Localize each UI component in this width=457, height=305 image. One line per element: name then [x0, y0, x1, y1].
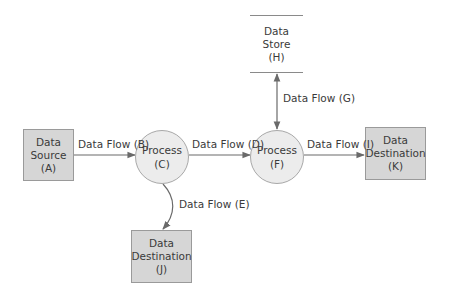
- flow-g-label: Data Flow (G): [283, 92, 355, 104]
- flow-e-label: Data Flow (E): [179, 198, 250, 210]
- node-label-line: (K): [388, 160, 403, 173]
- node-label-line: Data: [264, 25, 289, 38]
- flow-e-arrow: [163, 184, 173, 229]
- flow-d-label: Data Flow (D): [192, 138, 264, 150]
- node-label-line: (J): [156, 263, 167, 276]
- data-destination-j[interactable]: Data Destination (J): [131, 230, 192, 283]
- node-label-line: (H): [268, 51, 284, 64]
- flow-i-label: Data Flow (I): [307, 138, 374, 150]
- node-label-line: Destination: [365, 147, 425, 160]
- node-label-line: Store: [263, 38, 291, 51]
- data-destination-k[interactable]: Data Destination (K): [365, 127, 426, 180]
- data-store-h[interactable]: Data Store (H): [250, 15, 303, 73]
- node-label-line: (C): [154, 157, 170, 171]
- node-label-line: Data: [36, 136, 61, 149]
- data-source-a[interactable]: Data Source (A): [23, 129, 74, 181]
- node-label-line: (F): [270, 157, 284, 171]
- node-label-line: Source: [30, 149, 66, 162]
- node-label-line: Destination: [131, 250, 191, 263]
- node-label-line: (A): [41, 162, 56, 175]
- flow-b-label: Data Flow (B): [78, 138, 149, 150]
- node-label-line: Data: [383, 134, 408, 147]
- node-label-line: Data: [149, 237, 174, 250]
